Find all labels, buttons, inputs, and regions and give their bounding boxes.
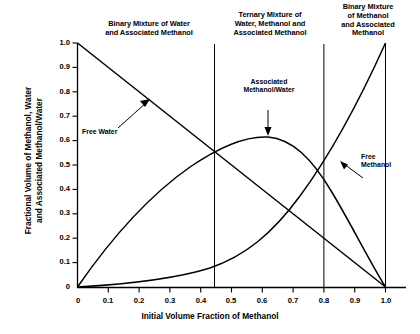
region-header-binary-methanol: Binary Mixture of Methanol and Associate… <box>326 3 410 38</box>
annotation-free-methanol-line2: Methanol <box>361 161 391 168</box>
y-tick-label-0.4: 0.4 <box>42 184 70 193</box>
region1-line2: and Associated Methanol <box>105 28 193 37</box>
y-tick-label-0.8: 0.8 <box>42 87 70 96</box>
x-tick-label-0.7: 0.7 <box>282 296 304 305</box>
region2-line3: Associated Methanol <box>234 28 307 37</box>
y-tick-label-0.5: 0.5 <box>42 160 70 169</box>
region-header-ternary: Ternary Mixture of Water, Methanol and A… <box>216 11 324 37</box>
x-tick-label-0.1: 0.1 <box>97 296 119 305</box>
annotation-assoc-line1: Associated <box>251 78 288 85</box>
x-tick-label-0.3: 0.3 <box>159 296 181 305</box>
chart-figure: Binary Mixture of Water and Associated M… <box>0 0 420 334</box>
series-associated-methanol-water <box>78 137 386 287</box>
x-tick-label-0.4: 0.4 <box>190 296 212 305</box>
annotation-assoc-line2: Methanol/Water <box>243 86 294 93</box>
x-tick-label-1.0: 1.0 <box>375 296 397 305</box>
annotation-free-water: Free Water <box>82 128 154 136</box>
region1-line1: Binary Mixture of Water <box>108 19 190 28</box>
y-tick-label-0.6: 0.6 <box>42 135 70 144</box>
y-tick-label-0.7: 0.7 <box>42 111 70 120</box>
y-tick-label-0.9: 0.9 <box>42 62 70 71</box>
x-axis-title: Initial Volume Fraction of Methanol <box>0 311 420 321</box>
y-axis-title: Fractional Volume of Methanol, Water and… <box>23 36 44 286</box>
annotation-free-methanol: Free Methanol <box>361 153 411 170</box>
region2-line1: Ternary Mixture of <box>238 10 301 19</box>
x-tick-label-0.2: 0.2 <box>128 296 150 305</box>
y-axis-title-line1: Fractional Volume of Methanol, Water <box>23 36 34 286</box>
region3-line2: of Methanol <box>348 11 389 20</box>
annotation-free-methanol-line1: Free <box>361 153 376 160</box>
region2-line2: Water, Methanol and <box>235 19 306 28</box>
x-tick-label-0.6: 0.6 <box>251 296 273 305</box>
x-tick-label-0: 0 <box>67 296 89 305</box>
x-tick-label-0.8: 0.8 <box>313 296 335 305</box>
y-tick-label-0.1: 0.1 <box>42 257 70 266</box>
x-tick-marks <box>108 288 385 293</box>
y-tick-label-0.3: 0.3 <box>42 208 70 217</box>
annotation-associated-methanol-water: Associated Methanol/Water <box>228 78 310 95</box>
region3-line1: Binary Mixture <box>343 2 394 11</box>
x-tick-label-0.5: 0.5 <box>220 296 242 305</box>
y-tick-label-1.0: 1.0 <box>42 38 70 47</box>
region3-line4: Methanol <box>352 28 384 37</box>
region-header-binary-water: Binary Mixture of Water and Associated M… <box>85 20 213 38</box>
y-tick-marks <box>73 43 78 263</box>
annotation-free-water-label: Free Water <box>82 128 117 135</box>
y-tick-label-0: 0 <box>42 282 70 291</box>
annotation-arrows <box>118 99 363 178</box>
y-tick-label-0.2: 0.2 <box>42 233 70 242</box>
region3-line3: and Associated <box>341 20 395 29</box>
x-tick-label-0.9: 0.9 <box>344 296 366 305</box>
y-axis-title-line2: and Associated Methanol/Water <box>33 36 44 286</box>
